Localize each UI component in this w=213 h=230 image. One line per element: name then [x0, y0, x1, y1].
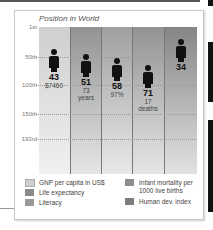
- right-edge-bar: [208, 0, 213, 230]
- y-tick-193rd: 193rd: [15, 136, 37, 142]
- y-tick-1st: 1st: [15, 24, 37, 30]
- rank-life-expectancy: 51: [71, 77, 101, 87]
- value-life-expectancy: 73: [71, 87, 101, 94]
- chart-title: Position in World: [39, 14, 99, 23]
- gridline-193rd: [36, 139, 197, 140]
- plot-area: 1st 50th 100th 150th 193rd 43 $7460 51 7…: [39, 27, 197, 174]
- person-icon: [142, 65, 154, 88]
- value-literacy: 97%: [102, 91, 132, 98]
- legend: GNP per capita in US$ Life expectancy Li…: [25, 179, 200, 215]
- person-icon: [111, 58, 123, 81]
- person-icon: [48, 49, 60, 72]
- column-literacy: [102, 27, 133, 174]
- rank-gnp: 43: [39, 72, 69, 82]
- top-rule: [0, 0, 200, 2]
- value-infant-mortality: 17: [133, 98, 163, 105]
- value-life-expectancy-unit: years: [71, 94, 101, 101]
- y-tick-100th: 100th: [15, 82, 37, 88]
- value-infant-mortality-unit: deaths: [133, 105, 163, 112]
- value-gnp: $7460: [39, 82, 69, 89]
- person-icon: [175, 39, 187, 62]
- chart-card: Position in World 1st 50th 100th 150th 1…: [14, 10, 204, 220]
- gridline-150th: [36, 114, 197, 115]
- rank-literacy: 58: [102, 81, 132, 91]
- y-tick-50th: 50th: [15, 54, 37, 60]
- rank-infant-mortality: 71: [133, 88, 163, 98]
- rank-human-dev-index: 34: [166, 62, 196, 72]
- y-tick-150th: 150th: [15, 111, 37, 117]
- person-icon: [80, 54, 92, 77]
